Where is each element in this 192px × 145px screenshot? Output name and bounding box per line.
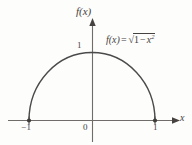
equation-lhs: f(x) [106, 34, 120, 45]
radicand: 1−x2 [133, 33, 155, 45]
y-axis-arrow-icon [89, 18, 95, 26]
x-axis-label: x [180, 113, 184, 123]
x-axis-arrow-icon [172, 117, 180, 123]
function-graph-figure: f(x) x −1 0 1 1 f(x)=√1−x2 [0, 0, 192, 145]
radicand-exponent: 2 [151, 33, 154, 40]
equation-equals-sign: = [120, 34, 128, 45]
origin-label: 0 [83, 123, 88, 132]
square-root-icon: √1−x2 [128, 33, 156, 45]
x-tick-label-negative-one: −1 [21, 123, 31, 132]
x-tick-label-one: 1 [153, 123, 158, 132]
y-tick-label-one: 1 [77, 41, 82, 50]
y-axis-label: f(x) [76, 6, 91, 17]
equation-annotation: f(x)=√1−x2 [106, 33, 155, 45]
radicand-minus-sign: − [139, 34, 147, 45]
